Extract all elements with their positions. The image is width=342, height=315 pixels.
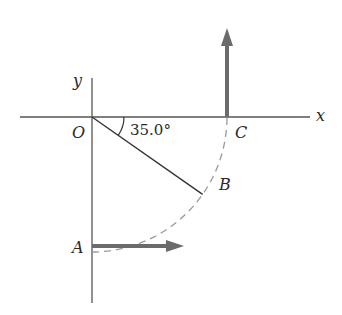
origin-label: O bbox=[72, 123, 85, 142]
point-b-label: B bbox=[218, 175, 231, 194]
x-axis-label: x bbox=[316, 106, 325, 125]
arrowhead-right-icon bbox=[166, 240, 184, 252]
point-a-label: A bbox=[70, 238, 84, 257]
arrowhead-up-icon bbox=[221, 28, 233, 46]
circular-path-diagram: y x O C B A 35.0° bbox=[0, 0, 342, 315]
angle-label: 35.0° bbox=[130, 121, 171, 139]
y-axis-label: y bbox=[72, 71, 83, 90]
point-c-label: C bbox=[235, 123, 247, 142]
angle-arc bbox=[118, 117, 124, 135]
